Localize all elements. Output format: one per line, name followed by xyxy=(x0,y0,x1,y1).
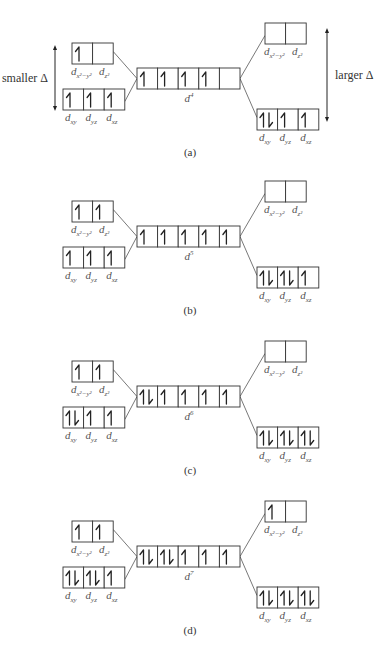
arrow-head-up-icon xyxy=(53,45,57,50)
orbital-box xyxy=(298,267,319,288)
orbital-cell xyxy=(199,226,220,247)
orbital-box xyxy=(257,587,278,608)
orbital-box xyxy=(178,68,199,89)
orbital-box xyxy=(219,68,240,89)
orbital-label-xy: dxy xyxy=(259,289,272,304)
orbital-cell xyxy=(84,567,105,588)
strong-field-t2g-orbitals xyxy=(257,427,319,448)
orbital-label-xz: dxz xyxy=(300,609,312,624)
orbital-box xyxy=(265,181,286,202)
orbital-cell xyxy=(257,587,278,608)
orbital-box xyxy=(137,546,158,567)
orbital-cell xyxy=(104,89,125,110)
orbital-box xyxy=(199,546,220,567)
orbital-cell xyxy=(72,361,93,382)
orbital-box xyxy=(219,386,240,407)
orbital-cell xyxy=(93,521,114,542)
orbital-cell xyxy=(286,181,307,202)
orbital-label-yz: dyz xyxy=(86,429,98,444)
orbital-cell xyxy=(84,407,105,428)
orbital-label-yz: dyz xyxy=(86,269,98,284)
splitting-connector-line xyxy=(240,354,265,397)
orbital-cell xyxy=(265,501,286,522)
orbital-label-dx2y2: dx²−y² xyxy=(264,45,286,60)
orbital-cell xyxy=(265,341,286,362)
orbital-cell xyxy=(278,267,299,288)
orbital-cell xyxy=(265,23,286,44)
panel-a: dx²−y²dz²dxydyzdxzd4dx²−y²dz²dxydyzdxz(a… xyxy=(2,23,374,159)
orbital-cell xyxy=(137,386,158,407)
orbital-cell xyxy=(298,267,319,288)
orbital-cell xyxy=(219,226,240,247)
panel-d: dx²−y²dz²dxydyzdxzd7dx²−y²dz²dxydyzdxz(d… xyxy=(63,501,319,637)
weak-field-t2g-orbitals xyxy=(63,247,125,268)
orbital-box xyxy=(219,546,240,567)
orbital-cell xyxy=(278,587,299,608)
orbital-label-dz2: dz² xyxy=(99,65,110,80)
orbital-label-xy: dxy xyxy=(65,589,78,604)
splitting-connector-line xyxy=(240,237,257,276)
orbital-box xyxy=(158,68,179,89)
orbital-box xyxy=(72,201,93,222)
orbital-box xyxy=(137,226,158,247)
orbital-label-xy: dxy xyxy=(259,131,272,146)
orbital-box xyxy=(72,43,93,64)
orbital-box xyxy=(63,89,84,110)
orbital-cell xyxy=(158,68,179,89)
orbital-cell xyxy=(84,89,105,110)
orbital-label-xz: dxz xyxy=(300,449,312,464)
orbital-box xyxy=(178,226,199,247)
orbital-cell xyxy=(265,181,286,202)
arrow-head-up-icon xyxy=(325,28,329,33)
weak-field-eg-orbitals xyxy=(72,521,113,542)
orbital-cell xyxy=(104,407,125,428)
orbital-box xyxy=(93,201,114,222)
orbital-cell xyxy=(104,567,125,588)
larger-delta-label: larger Δ xyxy=(335,68,374,82)
orbital-label-dx2y2: dx²−y² xyxy=(71,543,93,558)
orbital-cell xyxy=(158,386,179,407)
orbital-box xyxy=(298,587,319,608)
orbital-cell xyxy=(137,226,158,247)
orbital-cell xyxy=(286,341,307,362)
orbital-cell xyxy=(257,267,278,288)
panel-caption: (d) xyxy=(184,624,197,637)
orbital-box xyxy=(199,226,220,247)
orbital-cell xyxy=(137,68,158,89)
splitting-connector-line xyxy=(113,370,137,397)
orbital-box xyxy=(104,407,125,428)
electron-configuration-label: d7 xyxy=(185,569,195,582)
orbital-cell xyxy=(298,427,319,448)
panel-caption: (c) xyxy=(184,464,197,477)
electron-configuration-label: d4 xyxy=(185,91,195,104)
orbital-cell xyxy=(178,546,199,567)
strong-field-eg-orbitals xyxy=(265,23,306,44)
orbital-box xyxy=(63,407,84,428)
strong-field-eg-orbitals xyxy=(265,341,306,362)
panel-caption: (b) xyxy=(184,304,197,317)
orbital-box xyxy=(63,567,84,588)
orbital-box xyxy=(93,521,114,542)
strong-field-t2g-orbitals xyxy=(257,267,319,288)
orbital-label-dx2y2: dx²−y² xyxy=(264,523,286,538)
orbital-label-dx2y2: dx²−y² xyxy=(71,383,93,398)
orbital-cell xyxy=(178,226,199,247)
weak-field-eg-orbitals xyxy=(72,361,113,382)
orbital-cell xyxy=(199,68,220,89)
orbital-label-xy: dxy xyxy=(65,269,78,284)
orbital-label-xz: dxz xyxy=(106,111,118,126)
orbital-cell xyxy=(93,201,114,222)
orbital-label-dz2: dz² xyxy=(99,223,110,238)
orbital-cell xyxy=(219,386,240,407)
orbital-box xyxy=(104,247,125,268)
splitting-connector-line xyxy=(240,557,257,596)
panel-caption: (a) xyxy=(184,146,197,159)
splitting-connector-line xyxy=(240,36,265,79)
weak-field-t2g-orbitals xyxy=(63,407,125,428)
orbital-cell xyxy=(286,23,307,44)
orbital-label-xy: dxy xyxy=(259,449,272,464)
orbital-cell xyxy=(178,386,199,407)
strong-field-eg-orbitals xyxy=(265,181,306,202)
orbital-box xyxy=(158,386,179,407)
orbital-label-yz: dyz xyxy=(86,589,98,604)
